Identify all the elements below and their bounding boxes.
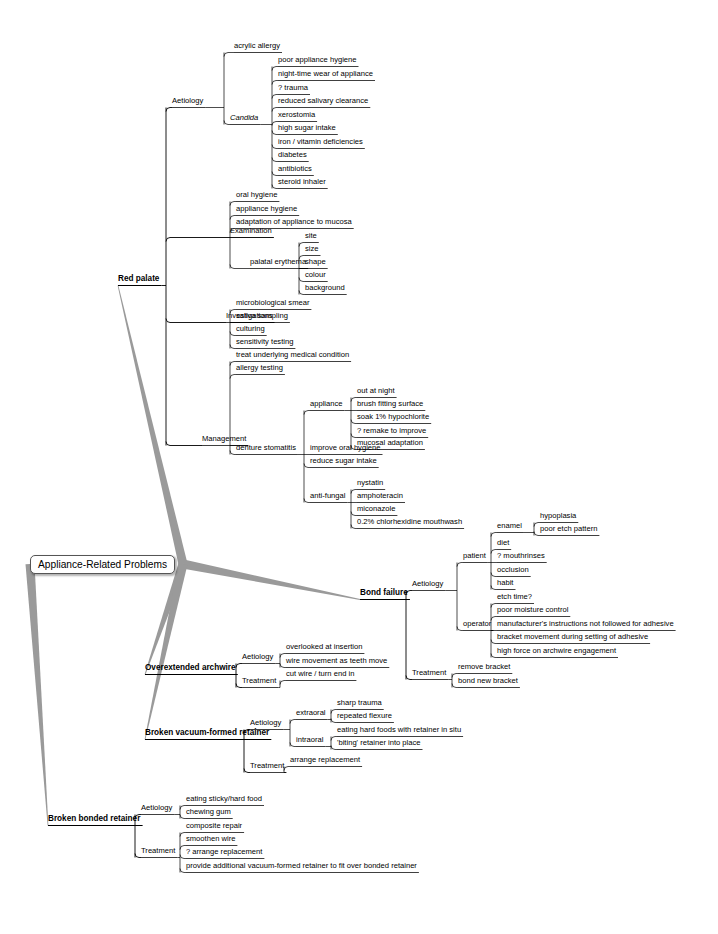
root-node[interactable]: Appliance-Related Problems <box>30 555 175 574</box>
node-label[interactable]: xerostomia <box>278 110 315 120</box>
node-label[interactable]: oral hygiene <box>236 190 277 200</box>
node-label[interactable]: Aetiology <box>242 652 273 662</box>
node-label[interactable]: high sugar intake <box>278 123 336 133</box>
node-label[interactable]: provide additional vacuum-formed retaine… <box>186 861 417 871</box>
node-label[interactable]: remove bracket <box>458 662 510 672</box>
node-label[interactable]: treat underlying medical condition <box>236 350 349 360</box>
node-label[interactable]: chewing gum <box>186 807 231 817</box>
node-label[interactable]: site <box>305 231 317 241</box>
node-label[interactable]: amphoteracin <box>357 491 403 501</box>
node-label[interactable]: enamel <box>497 521 522 531</box>
node-label[interactable]: palatal erythema <box>250 257 306 267</box>
node-label[interactable]: Examination <box>230 226 272 236</box>
node-label[interactable]: eating sticky/hard food <box>186 794 262 804</box>
node-label[interactable]: Aetiology <box>412 579 443 589</box>
node-label[interactable]: ? mouthrinses <box>497 551 545 561</box>
node-label[interactable]: acrylic allergy <box>234 41 280 51</box>
node-label[interactable]: steroid inhaler <box>278 177 326 187</box>
node-label[interactable]: denture stomatitis <box>236 443 296 453</box>
node-label[interactable]: intraoral <box>296 735 323 745</box>
node-label[interactable]: reduce sugar intake <box>310 456 377 466</box>
node-label[interactable]: etch time? <box>497 592 532 602</box>
node-label[interactable]: arrange replacement <box>290 755 360 765</box>
node-label[interactable]: appliance <box>310 399 343 409</box>
node-label[interactable]: Bond failure <box>360 588 408 598</box>
node-label[interactable]: out at night <box>357 386 395 396</box>
root-node-label: Appliance-Related Problems <box>38 559 167 570</box>
node-label[interactable]: Overextended archwire <box>145 663 236 673</box>
node-label[interactable]: Aetiology <box>250 718 281 728</box>
node-label[interactable]: miconazole <box>357 504 395 514</box>
node-label[interactable]: sharp trauma <box>337 698 382 708</box>
node-label[interactable]: Candida <box>230 113 258 123</box>
node-label[interactable]: bond new bracket <box>458 676 518 686</box>
node-label[interactable]: ? remake to improve <box>357 426 426 436</box>
node-label[interactable]: cut wire / turn end in <box>286 669 354 679</box>
node-label[interactable]: habit <box>497 578 513 588</box>
node-label[interactable]: ? trauma <box>278 83 308 93</box>
node-label[interactable]: Treatment <box>250 761 284 771</box>
node-label[interactable]: Broken bonded retainer <box>48 814 140 824</box>
node-label[interactable]: eating hard foods with retainer in situ <box>337 725 461 735</box>
node-label[interactable]: soak 1% hypochlorite <box>357 412 429 422</box>
node-label[interactable]: ? arrange replacement <box>186 847 262 857</box>
node-label[interactable]: background <box>305 283 345 293</box>
mind-map-canvas: Red palateAetiologyacrylic allergyCandid… <box>0 0 718 934</box>
node-label[interactable]: microbiological smear <box>236 298 309 308</box>
node-label[interactable]: operator <box>463 619 491 629</box>
node-label[interactable]: Treatment <box>412 668 446 678</box>
node-label[interactable]: saliva sampling <box>236 311 288 321</box>
node-label[interactable]: size <box>305 244 319 254</box>
node-label[interactable]: patient <box>463 551 486 561</box>
node-label[interactable]: diet <box>497 538 509 548</box>
node-label[interactable]: nystatin <box>357 478 383 488</box>
node-label[interactable]: Red palate <box>118 274 159 284</box>
node-label[interactable]: Broken vacuum-formed retainer <box>145 728 269 738</box>
node-label[interactable]: colour <box>305 270 326 280</box>
node-label[interactable]: Treatment <box>141 846 175 856</box>
node-label[interactable]: repeated flexure <box>337 711 392 721</box>
node-label[interactable]: poor etch pattern <box>540 524 597 534</box>
node-label[interactable]: anti-fungal <box>310 491 345 501</box>
node-label[interactable]: overlooked at insertion <box>286 642 362 652</box>
node-label[interactable]: Treatment <box>242 676 276 686</box>
node-label[interactable]: smoothen wire <box>186 834 235 844</box>
node-label[interactable]: shape <box>305 257 326 267</box>
node-label[interactable]: iron / vitamin deficiencies <box>278 137 363 147</box>
node-label[interactable]: occlusion <box>497 565 529 575</box>
node-label[interactable]: reduced salivary clearance <box>278 96 368 106</box>
node-label[interactable]: brush fitting surface <box>357 399 423 409</box>
node-label[interactable]: adaptation of appliance to mucosa <box>236 217 352 227</box>
node-label[interactable]: Aetiology <box>172 96 203 106</box>
node-label[interactable]: poor appliance hygiene <box>278 55 357 65</box>
node-label[interactable]: extraoral <box>296 708 326 718</box>
node-label[interactable]: night-time wear of appliance <box>278 69 373 79</box>
node-label[interactable]: 0.2% chlorhexidine mouthwash <box>357 517 462 527</box>
node-label[interactable]: manufacturer's instructions not followed… <box>497 619 674 629</box>
node-label[interactable]: sensitivity testing <box>236 337 293 347</box>
node-label[interactable]: improve oral hygiene <box>310 443 381 453</box>
node-label[interactable]: high force on archwire engagement <box>497 646 616 656</box>
node-label[interactable]: appliance hygiene <box>236 204 297 214</box>
node-label[interactable]: bracket movement during setting of adhes… <box>497 632 648 642</box>
node-label[interactable]: 'biting' retainer into place <box>337 738 421 748</box>
node-label[interactable]: Aetiology <box>141 803 172 813</box>
node-label[interactable]: antibiotics <box>278 164 312 174</box>
node-label[interactable]: poor moisture control <box>497 605 568 615</box>
node-label[interactable]: composite repair <box>186 821 242 831</box>
node-label[interactable]: allergy testing <box>236 363 283 373</box>
node-label[interactable]: diabetes <box>278 150 307 160</box>
node-label[interactable]: hypoplasia <box>540 511 576 521</box>
node-label[interactable]: wire movement as teeth move <box>286 656 387 666</box>
node-label[interactable]: culturing <box>236 324 265 334</box>
